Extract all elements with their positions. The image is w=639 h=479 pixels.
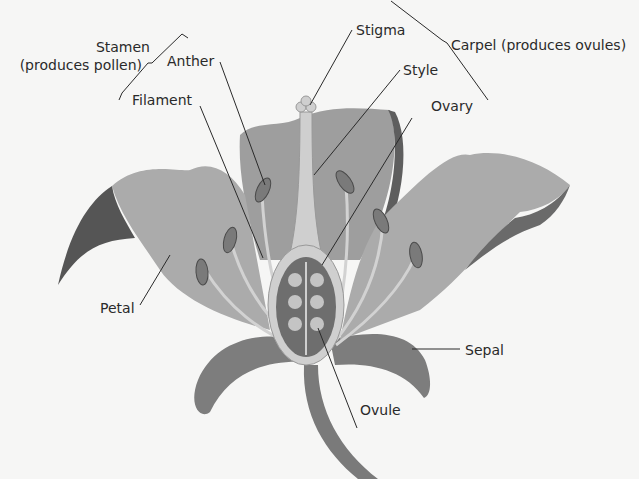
label-ovary: Ovary xyxy=(431,98,473,114)
label-ovule: Ovule xyxy=(360,402,401,418)
label-carpel: Carpel (produces ovules) xyxy=(451,37,626,53)
label-stigma: Stigma xyxy=(356,22,405,38)
label-style: Style xyxy=(403,62,438,78)
label-petal: Petal xyxy=(100,300,135,316)
left-petal xyxy=(58,166,270,330)
label-stamen: Stamen xyxy=(50,39,150,55)
label-anther: Anther xyxy=(167,53,214,69)
stem xyxy=(304,365,378,479)
label-filament: Filament xyxy=(132,92,192,108)
label-stamen-note: (produces pollen) xyxy=(2,57,142,73)
label-sepal: Sepal xyxy=(465,342,504,358)
